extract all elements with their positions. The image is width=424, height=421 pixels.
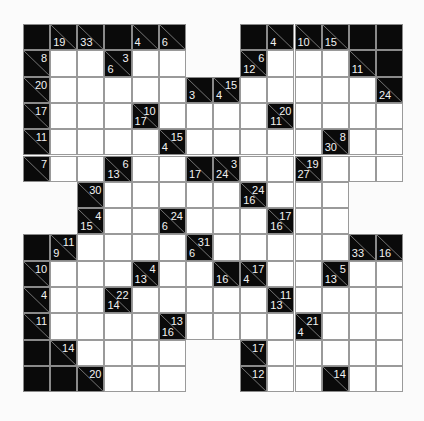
entry-cell[interactable] [77, 77, 104, 103]
entry-cell[interactable] [295, 287, 322, 313]
entry-cell[interactable] [77, 261, 104, 287]
entry-cell[interactable] [132, 366, 159, 392]
entry-cell[interactable] [240, 287, 267, 313]
entry-cell[interactable] [240, 77, 267, 103]
entry-cell[interactable] [322, 208, 349, 234]
entry-cell[interactable] [295, 234, 322, 260]
entry-cell[interactable] [267, 129, 294, 155]
entry-cell[interactable] [349, 129, 376, 155]
entry-cell[interactable] [50, 156, 77, 182]
entry-cell[interactable] [104, 313, 131, 339]
entry-cell[interactable] [50, 129, 77, 155]
entry-cell[interactable] [267, 340, 294, 366]
entry-cell[interactable] [77, 156, 104, 182]
entry-cell[interactable] [50, 77, 77, 103]
entry-cell[interactable] [349, 261, 376, 287]
entry-cell[interactable] [132, 129, 159, 155]
entry-cell[interactable] [104, 77, 131, 103]
entry-cell[interactable] [104, 129, 131, 155]
entry-cell[interactable] [77, 234, 104, 260]
entry-cell[interactable] [322, 156, 349, 182]
entry-cell[interactable] [159, 287, 186, 313]
entry-cell[interactable] [240, 129, 267, 155]
entry-cell[interactable] [132, 234, 159, 260]
entry-cell[interactable] [322, 287, 349, 313]
entry-cell[interactable] [376, 103, 403, 129]
entry-cell[interactable] [104, 234, 131, 260]
entry-cell[interactable] [159, 77, 186, 103]
entry-cell[interactable] [376, 156, 403, 182]
entry-cell[interactable] [349, 313, 376, 339]
entry-cell[interactable] [295, 261, 322, 287]
entry-cell[interactable] [267, 313, 294, 339]
entry-cell[interactable] [50, 103, 77, 129]
entry-cell[interactable] [50, 50, 77, 76]
entry-cell[interactable] [376, 313, 403, 339]
entry-cell[interactable] [322, 340, 349, 366]
entry-cell[interactable] [267, 77, 294, 103]
entry-cell[interactable] [322, 313, 349, 339]
entry-cell[interactable] [295, 103, 322, 129]
entry-cell[interactable] [104, 103, 131, 129]
entry-cell[interactable] [376, 340, 403, 366]
entry-cell[interactable] [322, 77, 349, 103]
entry-cell[interactable] [159, 182, 186, 208]
entry-cell[interactable] [267, 156, 294, 182]
entry-cell[interactable] [132, 50, 159, 76]
entry-cell[interactable] [186, 129, 213, 155]
entry-cell[interactable] [267, 366, 294, 392]
entry-cell[interactable] [159, 340, 186, 366]
entry-cell[interactable] [213, 103, 240, 129]
entry-cell[interactable] [104, 366, 131, 392]
entry-cell[interactable] [132, 313, 159, 339]
entry-cell[interactable] [159, 261, 186, 287]
entry-cell[interactable] [213, 208, 240, 234]
entry-cell[interactable] [159, 156, 186, 182]
entry-cell[interactable] [159, 103, 186, 129]
entry-cell[interactable] [267, 234, 294, 260]
entry-cell[interactable] [376, 261, 403, 287]
entry-cell[interactable] [295, 129, 322, 155]
entry-cell[interactable] [132, 77, 159, 103]
entry-cell[interactable] [295, 50, 322, 76]
entry-cell[interactable] [213, 129, 240, 155]
entry-cell[interactable] [240, 313, 267, 339]
entry-cell[interactable] [295, 366, 322, 392]
entry-cell[interactable] [186, 208, 213, 234]
entry-cell[interactable] [104, 208, 131, 234]
entry-cell[interactable] [159, 50, 186, 76]
entry-cell[interactable] [186, 287, 213, 313]
entry-cell[interactable] [186, 313, 213, 339]
entry-cell[interactable] [132, 208, 159, 234]
entry-cell[interactable] [376, 287, 403, 313]
entry-cell[interactable] [132, 287, 159, 313]
entry-cell[interactable] [213, 313, 240, 339]
entry-cell[interactable] [77, 313, 104, 339]
entry-cell[interactable] [132, 340, 159, 366]
entry-cell[interactable] [295, 340, 322, 366]
entry-cell[interactable] [104, 261, 131, 287]
entry-cell[interactable] [132, 182, 159, 208]
entry-cell[interactable] [77, 340, 104, 366]
entry-cell[interactable] [322, 182, 349, 208]
entry-cell[interactable] [295, 77, 322, 103]
entry-cell[interactable] [376, 366, 403, 392]
entry-cell[interactable] [50, 287, 77, 313]
entry-cell[interactable] [50, 313, 77, 339]
entry-cell[interactable] [240, 208, 267, 234]
entry-cell[interactable] [349, 77, 376, 103]
entry-cell[interactable] [267, 50, 294, 76]
entry-cell[interactable] [240, 103, 267, 129]
entry-cell[interactable] [322, 50, 349, 76]
entry-cell[interactable] [240, 234, 267, 260]
entry-cell[interactable] [322, 234, 349, 260]
entry-cell[interactable] [159, 366, 186, 392]
entry-cell[interactable] [186, 103, 213, 129]
entry-cell[interactable] [213, 182, 240, 208]
entry-cell[interactable] [104, 182, 131, 208]
entry-cell[interactable] [295, 182, 322, 208]
entry-cell[interactable] [77, 50, 104, 76]
entry-cell[interactable] [240, 156, 267, 182]
entry-cell[interactable] [376, 129, 403, 155]
entry-cell[interactable] [349, 340, 376, 366]
